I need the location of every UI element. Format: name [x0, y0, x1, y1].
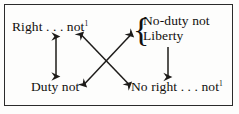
node-no-duty-not-label: No-duty not	[143, 13, 210, 28]
node-right-not-superscript: 1	[84, 19, 88, 28]
node-right-not: Right . . . not1	[12, 19, 88, 34]
node-liberty-label: Liberty	[143, 28, 210, 43]
node-no-right-not-label: No right . . . not	[131, 79, 219, 94]
node-group-top-right: No-duty not Liberty	[143, 13, 210, 43]
node-duty-not-label: Duty not	[31, 79, 79, 94]
node-no-right-not: No right . . . not1	[131, 79, 223, 94]
jural-relations-figure: Right . . . not1 Duty not No right . . .…	[0, 0, 239, 114]
node-no-right-not-superscript: 1	[219, 79, 223, 88]
diagonal-arrow-duty-to-noduty	[84, 35, 131, 85]
node-right-not-label: Right . . . not	[12, 19, 84, 34]
node-duty-not: Duty not	[31, 79, 79, 94]
diagonal-arrow-right-to-noright	[81, 35, 129, 85]
